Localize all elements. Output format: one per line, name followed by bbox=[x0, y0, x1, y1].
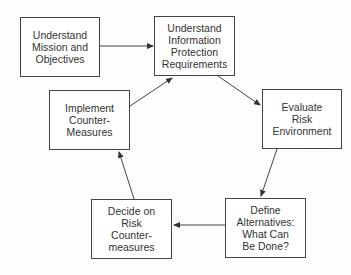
node-line: Protection bbox=[162, 46, 227, 58]
node-line: Evaluate bbox=[273, 101, 332, 113]
node-line: Measures bbox=[65, 126, 114, 138]
arrow-decide-to-implement bbox=[119, 152, 134, 199]
node-evaluate-risk: Evaluate Risk Environment bbox=[262, 89, 342, 149]
diagram-canvas: Understand Mission and Objectives Unders… bbox=[0, 0, 351, 275]
node-line: Risk bbox=[273, 113, 332, 125]
node-define-alternatives: Define Alternatives: What Can Be Done? bbox=[225, 198, 306, 258]
node-decide-countermeasures: Decide on Risk Counter- measures bbox=[91, 199, 172, 259]
node-line: Implement bbox=[65, 102, 114, 114]
node-line: Risk bbox=[108, 217, 155, 229]
node-line: Environment bbox=[273, 125, 332, 137]
node-implement-countermeasures: Implement Counter- Measures bbox=[49, 90, 130, 150]
node-line: Define bbox=[237, 204, 295, 216]
node-line: Counter- bbox=[108, 229, 155, 241]
node-line: Alternatives: bbox=[237, 216, 295, 228]
node-line: Decide on bbox=[108, 205, 155, 217]
arrow-requirements-to-evaluate bbox=[218, 76, 260, 105]
node-line: What Can bbox=[237, 228, 295, 240]
node-line: Counter- bbox=[65, 114, 114, 126]
node-understand-mission: Understand Mission and Objectives bbox=[20, 17, 100, 77]
node-line: Objectives bbox=[32, 53, 88, 65]
arrow-evaluate-to-define bbox=[261, 149, 277, 196]
node-line: Be Done? bbox=[237, 240, 295, 252]
node-line: measures bbox=[108, 241, 155, 253]
node-line: Mission and bbox=[32, 41, 88, 53]
node-understand-requirements: Understand Information Protection Requir… bbox=[154, 16, 235, 76]
node-line: Understand bbox=[162, 22, 227, 34]
node-line: Requirements bbox=[162, 58, 227, 70]
node-line: Understand bbox=[32, 29, 88, 41]
arrow-implement-to-requirements bbox=[130, 78, 172, 106]
node-line: Information bbox=[162, 34, 227, 46]
